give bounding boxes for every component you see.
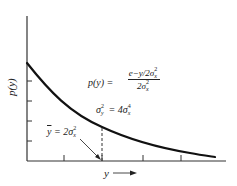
y-axis-label: p(y) <box>6 78 17 96</box>
pdf-numerator-sub: x <box>154 73 157 79</box>
mean-rhs: = 2σ <box>54 126 73 137</box>
pdf-numerator-text: e−y/2σ <box>129 68 155 78</box>
mean-equation: y = 2σ2x <box>47 127 78 137</box>
pdf-denominator-text: 2σ <box>137 81 146 91</box>
pdf-denominator-sub: x <box>146 86 149 92</box>
mean-arrow <box>80 139 99 158</box>
pdf-equation-fraction: e−y/2σ2x 2σ2x <box>128 68 160 91</box>
pdf-numerator: e−y/2σ2x <box>128 68 160 80</box>
y-ticks <box>27 81 32 141</box>
pdf-numerator-sup: 2 <box>154 66 157 72</box>
pdf-denominator-sup: 2 <box>146 79 149 85</box>
pdf-denominator: 2σ2x <box>128 80 160 91</box>
x-axis-arrowhead <box>130 171 137 176</box>
variance-rhs: = 4σ <box>108 104 127 115</box>
variance-equation: σ2y = 4σ4x <box>96 105 133 115</box>
pdf-equation-lhs: p(y) = <box>88 78 113 88</box>
variance-rhs-sup: 4 <box>128 103 131 109</box>
x-axis-label: y <box>104 168 109 179</box>
variance-lhs-sup: 2 <box>101 103 104 109</box>
x-ticks <box>64 155 181 161</box>
mean-rhs-sub: x <box>73 132 76 138</box>
mean-lhs: y <box>47 126 51 137</box>
variance-rhs-sub: x <box>128 110 131 116</box>
plot-canvas <box>0 0 237 186</box>
mean-rhs-sup: 2 <box>73 125 76 131</box>
variance-lhs-sub: y <box>101 110 104 116</box>
